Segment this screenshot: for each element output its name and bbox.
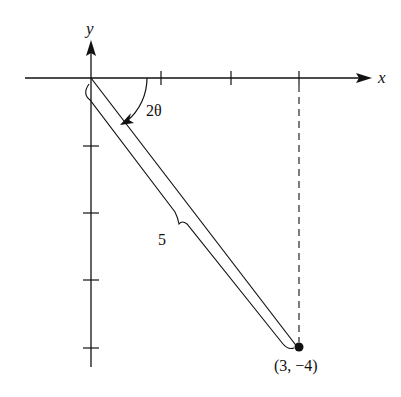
y-axis-label: y [84,19,94,38]
terminal-ray [91,78,298,348]
diagram-canvas: x y 2θ 5 (3, −4) [0,0,401,397]
length-brace [86,84,294,349]
point-label: (3, −4) [274,357,318,375]
angle-label: 2θ [146,102,162,119]
x-axis-label: x [377,68,386,87]
y-axis [83,40,99,367]
length-label: 5 [158,231,166,248]
point-marker [295,343,304,352]
x-axis [25,71,372,85]
